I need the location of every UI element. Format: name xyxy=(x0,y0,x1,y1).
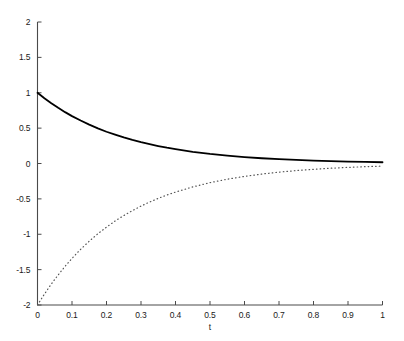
x-tick-label: 0.5 xyxy=(204,310,216,320)
axis-lines xyxy=(38,22,383,305)
x-tick-label: 0 xyxy=(35,310,40,320)
chart-figure: 21.510.50-0.5-1-1.5-2 00.10.20.30.40.50.… xyxy=(0,0,404,341)
y-tick-label: -1.5 xyxy=(0,265,31,275)
y-tick-label: -1 xyxy=(0,229,31,239)
x-tick-label: 1 xyxy=(380,310,385,320)
y-tick-label: 1 xyxy=(0,88,31,98)
x-tick-label: 0.2 xyxy=(101,310,113,320)
y-tick-label: 0 xyxy=(0,159,31,169)
dotted-curve xyxy=(38,166,383,305)
y-tick-label: 0.5 xyxy=(0,123,31,133)
data-series xyxy=(38,93,383,305)
x-tick-label: 0.6 xyxy=(239,310,251,320)
y-tick-label: -2 xyxy=(0,300,31,310)
x-tick-label: 0.1 xyxy=(66,310,78,320)
x-tick-label: 0.7 xyxy=(273,310,285,320)
x-tick-label: 0.8 xyxy=(308,310,320,320)
solid-curve xyxy=(38,93,383,162)
tick-marks xyxy=(38,22,383,305)
y-tick-label: 1.5 xyxy=(0,52,31,62)
plot-canvas xyxy=(0,0,404,341)
y-tick-label: 2 xyxy=(0,17,31,27)
x-tick-label: 0.4 xyxy=(170,310,182,320)
x-tick-label: 0.3 xyxy=(135,310,147,320)
y-tick-label: -0.5 xyxy=(0,194,31,204)
x-axis-title: t xyxy=(209,322,211,332)
x-tick-label: 0.9 xyxy=(342,310,354,320)
